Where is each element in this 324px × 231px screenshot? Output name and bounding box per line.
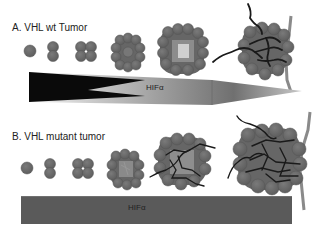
panel-b-stage-6-large-vascularized-cluster [228, 112, 310, 210]
panel-a-stage-4-small-cluster [111, 33, 145, 72]
necrotic-core [178, 44, 189, 58]
panel-b-stage-4-small-cluster [107, 149, 144, 190]
panel-b-stage-3-four-cell [73, 159, 94, 179]
diagram-canvas [0, 0, 324, 231]
panel-b-hif-alpha-label: HIFα [128, 203, 146, 212]
panel-a-stage-5-necrotic-core-cluster [158, 24, 209, 76]
panel-b-stage-5-vascularized-cluster [150, 133, 215, 190]
panel-a-hif-alpha-label: HIFα [146, 83, 164, 92]
panel-b-stage-1-single-cell [21, 162, 33, 174]
panel-a-stage-2-two-cell [48, 42, 59, 62]
panel-a-stage-3-four-cell [76, 42, 97, 62]
panel-b-stage-2-two-cell [45, 159, 56, 179]
panel-a-stage-6-vascularized-cluster [213, 4, 294, 92]
panel-a-stage-1-single-cell [24, 45, 36, 57]
panel-b-hif-alpha-bar [21, 196, 292, 224]
